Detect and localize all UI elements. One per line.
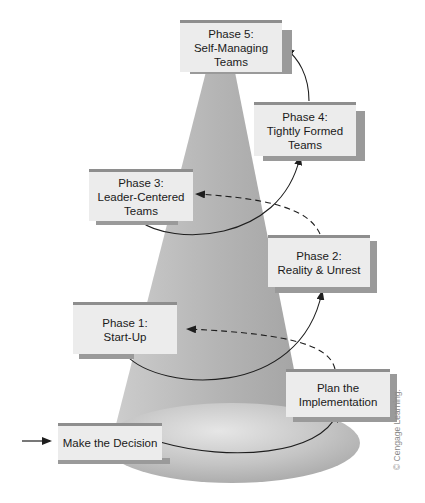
plan-label-2: Implementation — [299, 395, 378, 409]
phase5-title: Phase 5: — [194, 27, 268, 41]
phase5-label-2: Teams — [194, 55, 268, 69]
phase4-label-2: Teams — [267, 138, 343, 152]
phase5-box: Phase 5: Self-Managing Teams — [180, 20, 282, 72]
phase3-title: Phase 3: — [98, 176, 185, 190]
phase2-box: Phase 2: Reality & Unrest — [268, 235, 370, 287]
copyright-watermark: © Cengage Learning. — [392, 389, 402, 470]
phase3-label-2: Teams — [98, 204, 185, 218]
phase1-label: Start-Up — [102, 330, 147, 344]
plan-label-1: Plan the — [299, 381, 378, 395]
phase2-label: Reality & Unrest — [277, 263, 360, 277]
phase3-box: Phase 3: Leader-Centered Teams — [89, 169, 193, 221]
phase1-title: Phase 1: — [102, 316, 147, 330]
decision-box: Make the Decision — [58, 423, 162, 460]
phase5-label-1: Self-Managing — [194, 41, 268, 55]
cone-diagram: Phase 5: Self-Managing Teams Phase 4: Ti… — [0, 0, 425, 503]
phase4-label-1: Tightly Formed — [267, 124, 343, 138]
phase4-title: Phase 4: — [267, 110, 343, 124]
phase1-shadow — [79, 354, 134, 359]
phase4-box: Phase 4: Tightly Formed Teams — [254, 102, 356, 156]
decision-label: Make the Decision — [63, 436, 158, 450]
phase1-box: Phase 1: Start-Up — [73, 302, 177, 354]
phase3-label-1: Leader-Centered — [98, 190, 185, 204]
plan-box: Plan the Implementation — [286, 369, 390, 417]
phase2-title: Phase 2: — [277, 249, 360, 263]
